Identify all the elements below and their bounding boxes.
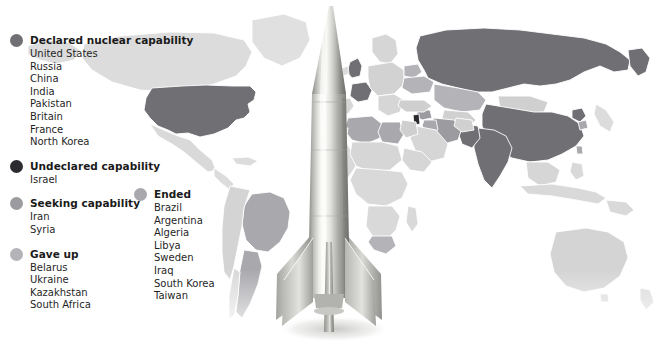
legend-swatch-ended-icon [134, 188, 147, 201]
infographic-canvas: Nuclear states worldwide [0, 0, 664, 345]
legend-list-ended: Brazil Argentina Algeria Libya Sweden Ir… [134, 202, 264, 303]
list-item: Argentina [154, 215, 264, 228]
legend-swatch-undeclared-icon [10, 160, 23, 173]
legend-swatch-seeking-icon [10, 197, 23, 210]
legend-secondary-column: Ended Brazil Argentina Algeria Libya Swe… [134, 188, 264, 303]
legend-header-undeclared: Undeclared capability [10, 160, 185, 173]
legend-title-undeclared: Undeclared capability [30, 160, 160, 173]
list-item: Algeria [154, 227, 264, 240]
list-item: Pakistan [30, 98, 185, 111]
list-item: South Korea [154, 278, 264, 291]
list-item: Sweden [154, 252, 264, 265]
legend-swatch-declared-icon [10, 34, 23, 47]
list-item: North Korea [30, 136, 185, 149]
legend-header-ended: Ended [134, 188, 264, 201]
legend-title-ended: Ended [154, 188, 191, 201]
legend-group-undeclared: Undeclared capability Israel [10, 160, 185, 187]
list-item: Brazil [154, 202, 264, 215]
list-item: Iraq [154, 265, 264, 278]
list-item: Britain [30, 111, 185, 124]
legend-title-gave-up: Gave up [30, 248, 79, 261]
top-caption: Nuclear states worldwide [6, 0, 111, 2]
list-item: United States [30, 48, 185, 61]
legend-title-declared: Declared nuclear capability [30, 34, 193, 47]
legend-group-declared: Declared nuclear capability United State… [10, 34, 185, 149]
list-item: Russia [30, 61, 185, 74]
list-item: Taiwan [154, 290, 264, 303]
legend-header-declared: Declared nuclear capability [10, 34, 185, 47]
list-item: China [30, 73, 185, 86]
legend-swatch-gave-up-icon [10, 248, 23, 261]
legend-list-undeclared: Israel [10, 174, 185, 187]
list-item: Libya [154, 240, 264, 253]
list-item: India [30, 86, 185, 99]
legend-group-ended: Ended Brazil Argentina Algeria Libya Swe… [134, 188, 264, 303]
list-item: Israel [30, 174, 185, 187]
legend-list-declared: United States Russia China India Pakista… [10, 48, 185, 149]
list-item: France [30, 124, 185, 137]
legend-title-seeking: Seeking capability [30, 197, 140, 210]
